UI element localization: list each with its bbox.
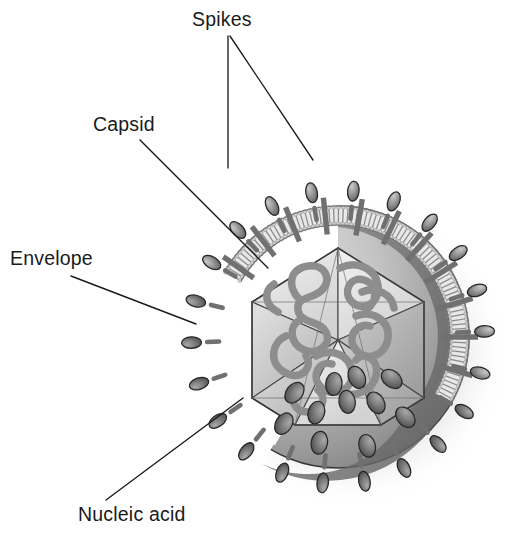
label-envelope: Envelope bbox=[10, 247, 93, 269]
leader-line-nucleic-acid bbox=[106, 398, 243, 500]
label-spikes: Spikes bbox=[192, 8, 252, 30]
virus-diagram-figure: SpikesCapsidEnvelopeNucleic acid bbox=[0, 0, 524, 545]
leader-line-spikes bbox=[230, 36, 313, 160]
virus-structure-illustration: SpikesCapsidEnvelopeNucleic acid bbox=[0, 0, 524, 545]
label-capsid: Capsid bbox=[93, 113, 155, 135]
label-nucleic-acid: Nucleic acid bbox=[78, 503, 186, 525]
